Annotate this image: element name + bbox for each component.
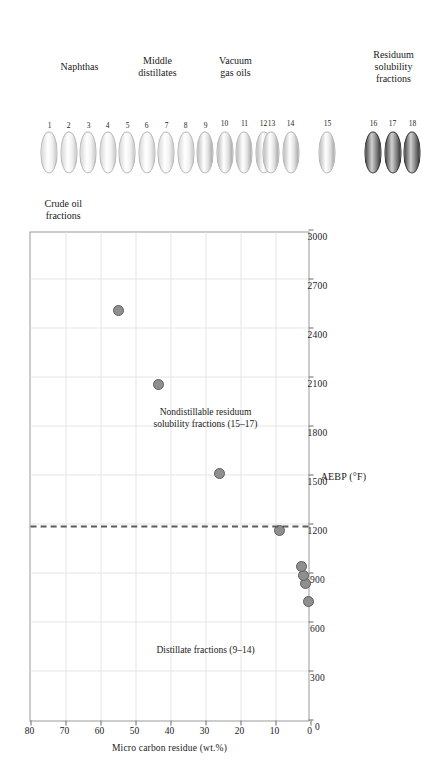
- y-axis-tick: [240, 720, 241, 725]
- fraction-cylinder-2: [60, 131, 77, 173]
- fraction-cylinder-16: [364, 131, 381, 173]
- x-axis-tick-label: 300: [310, 672, 325, 682]
- annotation-residuum-line2: solubility fractions (15–17): [153, 418, 257, 430]
- legend-group-vacuum-gas-oils-b: 1314: [262, 131, 301, 173]
- legend-group-label-vacuum-gas-oils: Vacuumgas oils: [219, 55, 252, 79]
- gridline-vertical: [30, 670, 308, 671]
- y-axis-tick-label: 80: [24, 725, 34, 735]
- x-axis-tick-label: 1200: [307, 525, 327, 535]
- y-axis-tick-label: 0: [307, 725, 312, 735]
- x-axis-tick-label: 2700: [307, 280, 327, 290]
- x-axis-tick-label: 600: [310, 623, 325, 633]
- y-axis-tick-label: 50: [129, 725, 139, 735]
- x-axis-tick: [308, 327, 313, 328]
- gridline-vertical: [30, 376, 308, 377]
- fraction-cylinder-13: [262, 131, 279, 173]
- distillable-limit-divider: [30, 525, 308, 527]
- y-axis-tick-label: 10: [269, 725, 279, 735]
- gridline-vertical: [30, 327, 308, 328]
- fraction-number-18: 18: [408, 119, 416, 128]
- crude-oil-fractions-legend: Crude oil fractions 1234Naphthas5678Midd…: [0, 3, 367, 203]
- legend-group-label-line: Residuum: [373, 49, 414, 61]
- x-axis-tick: [308, 376, 313, 377]
- y-axis-tick: [205, 720, 206, 725]
- legend-header-line2: fractions: [44, 209, 82, 221]
- plot-panel: Distillate fractions (9–14) Nondistillab…: [29, 231, 309, 721]
- legend-group-residuum-solubility: 161718Residuumsolubilityfractions: [364, 131, 423, 173]
- gridline-horizontal: [275, 232, 276, 720]
- legend-group-naphthas: 1234Naphthas: [40, 131, 118, 173]
- y-axis-title: Micro carbon residue (wt.%): [111, 742, 226, 752]
- y-axis-tick-label: 30: [199, 725, 209, 735]
- gridline-vertical: [30, 621, 308, 622]
- annotation-residuum-fractions: Nondistillable residuum solubility fract…: [153, 406, 257, 429]
- fraction-cylinder-15: [318, 131, 335, 173]
- legend-group-label-line: solubility: [373, 61, 414, 73]
- x-axis-tick: [308, 523, 313, 524]
- fraction-number-4: 4: [105, 121, 109, 130]
- x-axis-tick: [308, 621, 313, 622]
- fraction-cylinder-3: [79, 131, 96, 173]
- y-axis-tick: [310, 720, 311, 725]
- gridline-vertical: [30, 523, 308, 524]
- x-axis-tick-label: 2100: [307, 378, 327, 388]
- fraction-number-14: 14: [286, 119, 294, 128]
- fraction-number-9: 9: [203, 121, 207, 130]
- fraction-number-13: 13: [267, 119, 275, 128]
- legend-group-label-line: distillates: [138, 67, 176, 79]
- x-axis-tick: [308, 425, 313, 426]
- legend-group-label-naphthas: Naphthas: [60, 61, 98, 73]
- x-axis-tick: [308, 572, 313, 573]
- x-axis-tick-label: 0: [315, 721, 320, 731]
- fraction-number-2: 2: [66, 121, 70, 130]
- fraction-cylinder-5: [118, 131, 135, 173]
- fraction-number-8: 8: [183, 121, 187, 130]
- fraction-number-16: 16: [369, 119, 377, 128]
- legend-group-label-line: fractions: [373, 73, 414, 85]
- legend-group-label-line: Naphthas: [60, 61, 98, 73]
- gridline-vertical: [30, 474, 308, 475]
- annotation-distillate-text: Distillate fractions (9–14): [156, 644, 254, 654]
- legend-group-label-line: Vacuum: [219, 55, 252, 67]
- fraction-number-5: 5: [125, 121, 129, 130]
- fraction-cylinder-4: [99, 131, 116, 173]
- data-point: [152, 378, 163, 389]
- fraction-cylinder-17: [384, 131, 401, 173]
- gridline-horizontal: [65, 232, 66, 720]
- fraction-number-11: 11: [240, 119, 247, 128]
- fraction-cylinder-6: [138, 131, 155, 173]
- y-axis-tick-label: 40: [164, 725, 174, 735]
- legend-header-line1: Crude oil: [44, 197, 82, 209]
- x-axis-tick-label: 2400: [307, 329, 327, 339]
- x-axis-tick-label: 3000: [307, 231, 327, 241]
- legend-group-label-residuum-solubility: Residuumsolubilityfractions: [373, 49, 414, 86]
- fraction-number-10: 10: [220, 119, 228, 128]
- data-point: [303, 595, 314, 606]
- annotation-distillate-fractions: Distillate fractions (9–14): [156, 644, 254, 656]
- legend-group-middle-distillates: 5678Middledistillates: [118, 131, 196, 173]
- x-axis-title: AEBP (°F): [320, 471, 366, 482]
- y-axis-tick-label: 70: [59, 725, 69, 735]
- fraction-cylinder-14: [282, 131, 299, 173]
- x-axis-tick: [308, 229, 313, 230]
- fraction-cylinder-7: [157, 131, 174, 173]
- fraction-cylinder-18: [403, 131, 420, 173]
- fraction-number-12: 12: [259, 119, 267, 128]
- legend-group-label-middle-distillates: Middledistillates: [138, 55, 176, 79]
- x-axis-tick-label: 1800: [307, 427, 327, 437]
- x-axis-tick-label: 900: [310, 574, 325, 584]
- y-axis-tick: [30, 720, 31, 725]
- legend-group-label-line: gas oils: [219, 67, 252, 79]
- fraction-number-1: 1: [47, 121, 51, 130]
- fraction-cylinder-10: [216, 131, 233, 173]
- y-axis-tick: [135, 720, 136, 725]
- legend-group-label-line: Middle: [138, 55, 176, 67]
- data-point: [214, 468, 225, 479]
- fraction-cylinder-1: [40, 131, 57, 173]
- data-point: [112, 305, 123, 316]
- fraction-number-3: 3: [86, 121, 90, 130]
- y-axis-tick: [100, 720, 101, 725]
- y-axis-tick: [170, 720, 171, 725]
